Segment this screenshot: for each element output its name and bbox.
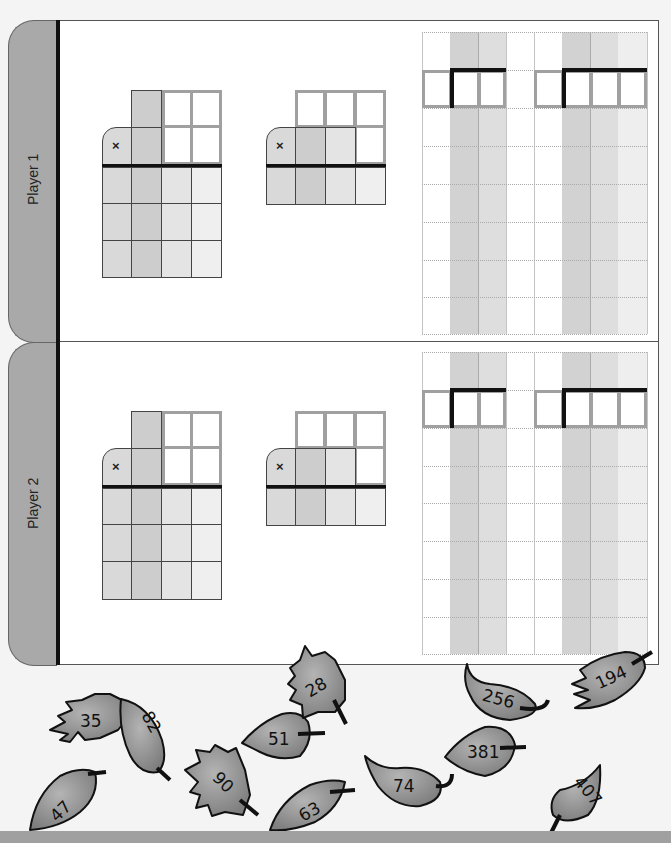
- leaf-card-90[interactable]: 90: [185, 745, 258, 816]
- leaf-card-35[interactable]: 35: [50, 694, 128, 742]
- leaf-card-51[interactable]: 51: [242, 713, 325, 758]
- leaf-value: 51: [268, 729, 290, 749]
- leaf-card-256[interactable]: 256: [465, 664, 548, 720]
- leaf-value: 74: [393, 776, 415, 796]
- leaf-card-47[interactable]: 47: [30, 770, 106, 830]
- leaf-card-28[interactable]: 28: [288, 646, 346, 724]
- leaf-value: 35: [80, 711, 102, 731]
- leaf-card-82[interactable]: 82: [120, 699, 170, 780]
- leaf-card-194[interactable]: 194: [572, 652, 652, 708]
- bottom-bar: [0, 831, 671, 843]
- leaf-card-381[interactable]: 381: [445, 727, 526, 776]
- leaves-layer: 35 82 47 90 51 28: [0, 0, 671, 843]
- leaf-value: 381: [467, 742, 499, 762]
- leaf-card-63[interactable]: 63: [270, 781, 355, 831]
- leaf-card-407[interactable]: 407: [551, 765, 606, 833]
- leaf-card-74[interactable]: 74: [365, 756, 452, 806]
